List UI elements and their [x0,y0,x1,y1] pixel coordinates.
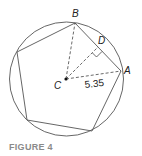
figure-caption: FIGURE 4 [9,142,53,152]
geometry-diagram: B D A C 5.35 [0,0,142,156]
label-A: A [123,65,131,76]
pentagon-inscribed-figure: B D A C 5.35 FIGURE 4 [0,0,142,156]
label-D: D [98,35,105,46]
label-B: B [72,8,79,19]
apothem-CD [66,47,98,79]
right-angle-marker [93,52,103,58]
center-point [64,77,67,80]
radius-CB [66,23,75,79]
radius-length-label: 5.35 [84,77,105,90]
label-C: C [54,80,62,91]
regular-pentagon [17,23,121,131]
